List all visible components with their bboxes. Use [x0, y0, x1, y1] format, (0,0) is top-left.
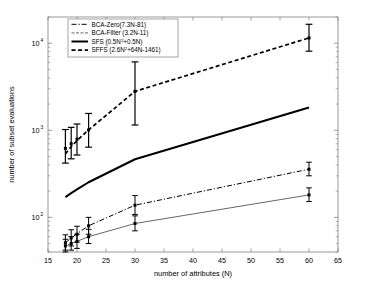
data-point-marker: [134, 90, 137, 93]
x-tick-label: 15: [44, 256, 52, 265]
x-tick-label: 40: [189, 256, 197, 265]
data-point-marker: [76, 138, 79, 141]
data-point-marker: [64, 147, 67, 150]
x-tick-label: 60: [305, 256, 313, 265]
y-tick-label: 10: [32, 39, 40, 48]
y-tick-exponent: 4: [41, 38, 44, 43]
data-point-marker: [308, 168, 311, 171]
x-tick-label: 50: [247, 256, 255, 265]
x-axis-label: number of attributes (N): [154, 269, 232, 278]
y-axis-label: number of subset evaluations: [7, 86, 16, 183]
y-tick-label: 10: [32, 213, 40, 222]
legend-label-0: BCA-Zero(7.3N-81): [92, 21, 147, 29]
y-tick-exponent: 2: [41, 212, 44, 217]
x-tick-label: 35: [160, 256, 168, 265]
data-point-marker: [308, 36, 311, 39]
data-point-marker: [87, 224, 90, 227]
evaluations-vs-attributes-chart: 1520253035404550556065102103104number of…: [0, 0, 366, 296]
data-point-marker: [134, 222, 137, 225]
y-tick-exponent: 3: [41, 125, 44, 130]
data-point-marker: [134, 204, 137, 207]
data-point-marker: [70, 242, 73, 245]
data-point-marker: [64, 244, 67, 247]
legend-label-1: BCA-Filter (3.2N-11): [92, 29, 149, 37]
data-point-marker: [76, 240, 79, 243]
x-tick-label: 45: [218, 256, 226, 265]
data-point-marker: [70, 142, 73, 145]
data-point-marker: [87, 235, 90, 238]
chart-figure: 1520253035404550556065102103104number of…: [0, 0, 366, 296]
x-tick-label: 30: [131, 256, 139, 265]
data-point-marker: [87, 128, 90, 131]
y-tick-label: 10: [32, 126, 40, 135]
data-point-marker: [308, 193, 311, 196]
legend-label-2: SFS (0.5N2+0.5N): [92, 38, 143, 46]
x-tick-label: 65: [334, 256, 342, 265]
x-tick-label: 20: [73, 256, 81, 265]
x-tick-label: 25: [102, 256, 110, 265]
x-tick-label: 55: [276, 256, 284, 265]
